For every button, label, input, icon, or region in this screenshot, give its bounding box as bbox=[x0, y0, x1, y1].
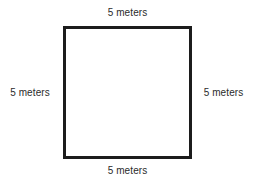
diagram-canvas: 5 meters 5 meters 5 meters 5 meters bbox=[0, 0, 253, 186]
dimension-label-right: 5 meters bbox=[194, 87, 253, 99]
square-shape bbox=[63, 26, 192, 159]
dimension-label-left: 5 meters bbox=[0, 87, 60, 99]
dimension-label-bottom: 5 meters bbox=[63, 165, 192, 177]
dimension-label-top: 5 meters bbox=[63, 7, 192, 19]
